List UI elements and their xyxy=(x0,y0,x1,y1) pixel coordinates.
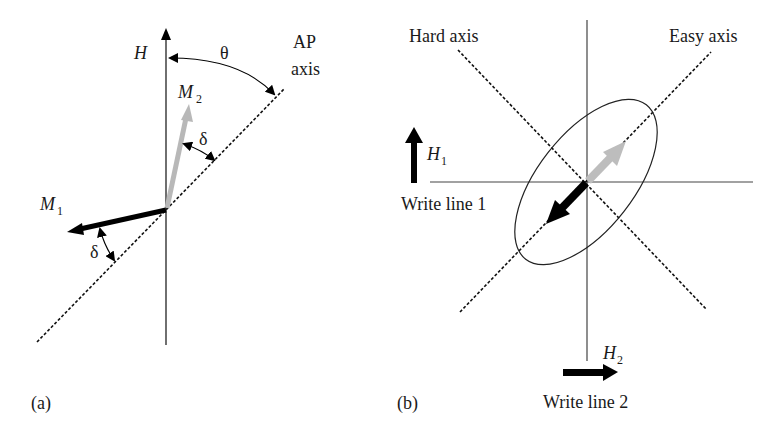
h2-label: H xyxy=(602,343,617,363)
h2-subscript: 2 xyxy=(617,353,623,367)
ap-axis-dashed-line xyxy=(37,88,285,342)
m2-label: M xyxy=(177,82,194,102)
panel-b: Hard axis Easy axis H 1 Write line 1 H 2… xyxy=(397,20,753,414)
m2-vector xyxy=(167,118,186,208)
ap-axis-label-line2: axis xyxy=(291,59,320,79)
delta-lower-arc xyxy=(100,229,114,260)
panel-a-caption: (a) xyxy=(31,393,51,414)
write-line-2-label: Write line 2 xyxy=(543,392,628,412)
h1-label: H xyxy=(426,144,441,164)
m1-label: M xyxy=(39,194,56,214)
h-field-arrowhead-icon xyxy=(161,28,171,40)
h1-arrow-shaft xyxy=(411,140,417,183)
delta-upper-label: δ xyxy=(199,129,207,149)
delta-lower-label: δ xyxy=(90,242,98,262)
theta-label: θ xyxy=(220,43,229,63)
h1-arrowhead-icon xyxy=(405,127,423,143)
hard-axis-label: Hard axis xyxy=(409,26,478,46)
m1-vector xyxy=(80,210,166,229)
panel-a: H θ AP axis M 2 M 1 δ δ (a) xyxy=(31,28,320,414)
m2-subscript: 2 xyxy=(196,92,202,106)
hard-axis-dashed-line xyxy=(458,50,707,310)
m1-arrowhead-icon xyxy=(67,223,84,235)
m2-arrowhead-icon xyxy=(181,104,193,122)
m1-subscript: 1 xyxy=(57,204,63,218)
figure-canvas: H θ AP axis M 2 M 1 δ δ (a) Ha xyxy=(0,0,783,432)
h2-arrow-shaft xyxy=(563,369,605,376)
write-line-1-label: Write line 1 xyxy=(401,194,486,214)
easy-axis-label: Easy axis xyxy=(669,26,737,46)
panel-b-caption: (b) xyxy=(397,393,418,414)
h2-arrowhead-icon xyxy=(603,364,618,381)
h-field-label: H xyxy=(133,43,148,63)
ap-axis-label-line1: AP xyxy=(293,32,316,52)
dark-magnetization-vector xyxy=(560,183,586,210)
h1-subscript: 1 xyxy=(441,154,447,168)
